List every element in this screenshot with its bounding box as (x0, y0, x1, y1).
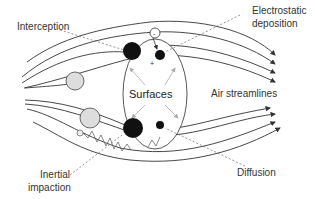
inertial-particle (123, 118, 143, 138)
label-electrostatic-2: deposition (252, 18, 298, 30)
diffusion-zigzag (83, 131, 131, 151)
label-inertial-2: impaction (28, 182, 71, 194)
interception-particle (123, 42, 141, 60)
diffusion-particle (156, 121, 164, 129)
svg-text:+: + (150, 60, 154, 67)
label-inertial-1: Inertial (40, 169, 70, 181)
label-air-streamlines: Air streamlines (211, 88, 277, 100)
light-particle-lower (80, 108, 100, 128)
label-surfaces: Surfaces (129, 88, 172, 100)
electrostatic-particle-deposited (155, 50, 165, 60)
label-electrostatic-1: Electrostatic (252, 5, 306, 17)
label-interception: Interception (17, 21, 69, 33)
small-light-particle (77, 130, 83, 136)
label-diffusion: Diffusion (237, 167, 276, 179)
light-particle-upper (66, 72, 84, 90)
